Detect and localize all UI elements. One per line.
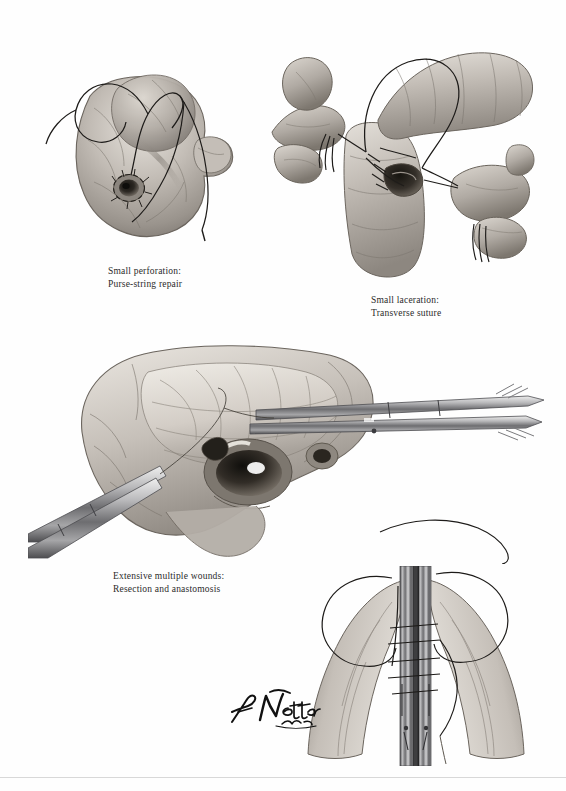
suture-tail (440, 736, 446, 764)
suture-thread (380, 520, 508, 564)
bowel-limb-left (308, 580, 406, 759)
footer-caption (6, 782, 426, 791)
needle (202, 230, 205, 241)
right-hand (451, 145, 534, 258)
clamp-shafts (400, 566, 431, 766)
caption-small-laceration: Small laceration: Transverse suture (371, 294, 441, 320)
figure-anastomosis (288, 566, 540, 766)
perforation-small (306, 443, 338, 469)
illustration-page: Small perforation: Purse-string repair S… (0, 0, 566, 791)
footer-divider (0, 777, 566, 778)
left-hand (272, 58, 345, 183)
figure-purse-string (32, 36, 262, 261)
caption-small-perforation: Small perforation: Purse-string repair (108, 265, 182, 291)
figure-resection (28, 336, 544, 564)
duodenum-right-lobe (194, 137, 231, 173)
duodenum-upper-limb (378, 53, 533, 139)
artist-signature (226, 688, 322, 730)
caption-extensive-wounds: Extensive multiple wounds: Resection and… (113, 570, 224, 596)
figure-transverse-suture (268, 28, 536, 283)
clamp-ratchet (496, 384, 534, 440)
tissue-fringe (166, 506, 265, 556)
